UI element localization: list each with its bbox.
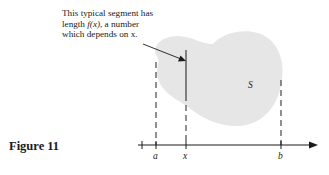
figure-caption: Figure 11	[9, 139, 59, 154]
axis-label-b: b	[278, 151, 283, 161]
annotation-func: f(x)	[87, 19, 100, 29]
annotation-line-1: This typical segment has	[62, 8, 182, 19]
region-label-s: S	[248, 80, 253, 90]
annotation-line-2: length f(x), a number	[62, 19, 182, 30]
annotation-text: , a number	[100, 19, 139, 29]
axis-label-a: a	[153, 151, 158, 161]
segment-annotation: This typical segment has length f(x), a …	[62, 8, 182, 40]
region-s	[155, 31, 282, 126]
annotation-text: length	[62, 19, 87, 29]
axis-arrow-icon	[309, 142, 318, 149]
annotation-line-3: which depends on x.	[62, 29, 182, 40]
axis-label-x: x	[183, 151, 187, 161]
